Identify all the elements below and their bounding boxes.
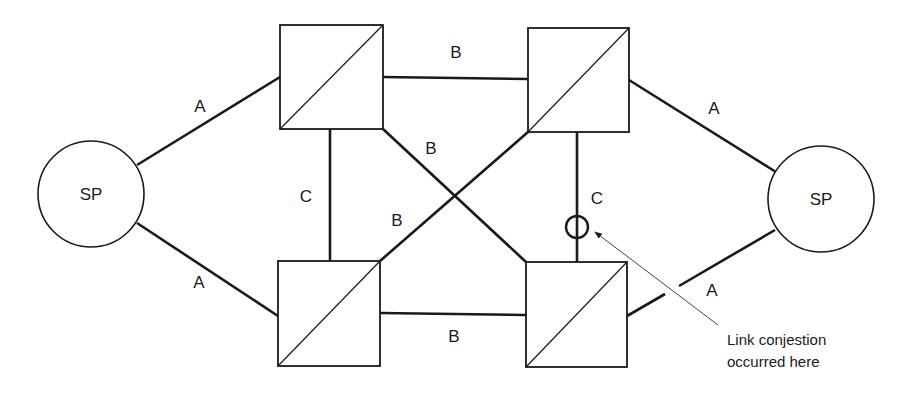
label-b-diagonal-up: B xyxy=(391,211,402,230)
label-b-bottom: B xyxy=(448,327,459,346)
sp-left-node: SP xyxy=(38,141,144,247)
stp-bottom-left xyxy=(278,261,380,366)
stp-top-right xyxy=(528,28,629,132)
link-a-right-bottom-seg1 xyxy=(627,294,665,316)
link-a-left-top xyxy=(137,77,280,165)
label-a-left-bottom: A xyxy=(193,273,205,292)
label-a-right-bottom: A xyxy=(706,281,718,300)
label-b-top: B xyxy=(450,43,461,62)
link-b-bottom xyxy=(380,313,526,315)
sp-left-label: SP xyxy=(80,185,103,204)
annotation-line-1: Link conjestion xyxy=(727,331,826,348)
annotation-line-2: occurred here xyxy=(727,353,820,370)
link-a-left-bottom xyxy=(137,223,278,316)
stp-bottom-right xyxy=(526,262,627,367)
label-a-left-top: A xyxy=(194,97,206,116)
signaling-network-diagram: SP SP A A A A B B B B C C Link conjestio… xyxy=(0,0,911,406)
label-c-left: C xyxy=(300,187,312,206)
links-b xyxy=(380,77,528,315)
link-a-right-top xyxy=(629,80,776,172)
stp-top-left xyxy=(280,25,383,129)
sp-right-label: SP xyxy=(810,190,833,209)
link-b-top xyxy=(383,77,528,79)
label-a-right-top: A xyxy=(708,99,720,118)
link-a-right-bottom-seg2 xyxy=(679,230,775,286)
label-b-diagonal-down: B xyxy=(425,139,436,158)
label-c-right: C xyxy=(591,189,603,208)
sp-right-node: SP xyxy=(768,146,874,252)
